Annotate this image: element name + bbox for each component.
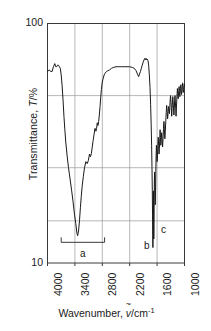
x-axis-title-unit: /cm — [131, 307, 148, 319]
wavenumber-symbol: ~v — [126, 307, 131, 319]
annotation-bracket-a — [61, 237, 104, 242]
y-axis-title-prefix: Transmittance, — [27, 107, 39, 180]
ir-spectrum-figure: Transmittance, T/% Wavenumber, ~v/cm-1 1… — [0, 0, 211, 331]
y-axis-title-unit: /% — [27, 88, 39, 100]
annotation-label-a: a — [80, 248, 86, 259]
y-axis-title: Transmittance, T/% — [27, 39, 39, 229]
tilde-accent: ~ — [126, 300, 131, 309]
x-axis-title: Wavenumber, ~v/cm-1 — [14, 307, 199, 319]
annotation-label-b: b — [144, 240, 150, 251]
y-axis-title-symbol: T — [27, 100, 39, 107]
annotation-label-c: c — [161, 224, 166, 235]
x-axis-title-prefix: Wavenumber, — [58, 307, 125, 319]
x-axis-title-exponent: -1 — [148, 306, 155, 315]
spectrum-trace — [48, 58, 185, 247]
